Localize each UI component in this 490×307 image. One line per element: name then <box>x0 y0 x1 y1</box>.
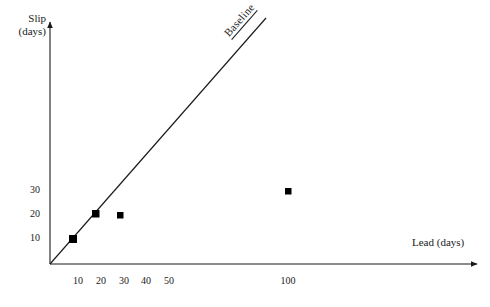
y-axis-title: Slip (days) <box>2 12 46 38</box>
y-tick-label-20: 20 <box>14 209 40 219</box>
data-point-marker <box>92 210 100 218</box>
y-axis-title-line1: Slip <box>28 12 46 24</box>
x-axis-title: Lead (days) <box>412 236 464 249</box>
data-point-marker <box>285 188 292 195</box>
data-point-marker <box>117 212 124 219</box>
y-tick-label-10: 10 <box>14 233 40 243</box>
chart-figure: Slip (days) Lead (days) 30 20 10 10 20 3… <box>0 0 490 307</box>
x-tick-label-100: 100 <box>275 276 301 286</box>
y-axis-title-line2: (days) <box>2 25 46 38</box>
data-point-group <box>69 188 292 243</box>
chart-canvas <box>0 0 490 307</box>
y-tick-label-30: 30 <box>14 185 40 195</box>
x-tick-label-50: 50 <box>156 276 182 286</box>
data-point-marker <box>69 235 77 243</box>
baseline-reference-line <box>50 18 266 264</box>
